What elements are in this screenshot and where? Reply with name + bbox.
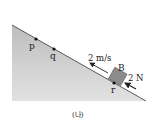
caption: (나) — [72, 110, 84, 119]
block-label: B — [118, 63, 125, 73]
point-r-label: r — [111, 85, 116, 95]
force-label: 2 N — [128, 73, 144, 83]
force-arrow — [125, 83, 136, 89]
incline-diagram: p q B r 2 m/s 2 N (나) — [0, 0, 154, 124]
point-p-dot — [34, 37, 37, 40]
point-q-label: q — [50, 51, 56, 61]
velocity-label: 2 m/s — [88, 53, 111, 63]
point-p-label: p — [29, 41, 35, 51]
